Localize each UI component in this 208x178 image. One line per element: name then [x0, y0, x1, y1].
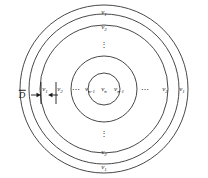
label-right-v2: v2	[162, 86, 168, 93]
ellipsis-right: ⋯	[141, 85, 150, 94]
label-center-vn: vn	[101, 86, 107, 93]
ellipsis-top: ⋮	[100, 40, 108, 49]
label-right-vn1: vn-1	[114, 86, 124, 93]
label-top-v1: v1	[101, 9, 107, 16]
velocity-index: 1	[182, 88, 185, 93]
label-left-v1: v1	[42, 86, 48, 93]
label-top-v2: v2	[101, 24, 107, 31]
velocity-index: 1	[104, 166, 107, 171]
label-bottom-v1: v1	[101, 164, 107, 171]
ellipsis-left: ⋯	[72, 85, 81, 94]
velocity-index: 2	[60, 88, 63, 93]
velocity-index: 2	[104, 151, 107, 156]
label-left-vn1: vn-1	[85, 86, 95, 93]
figure-canvas: v1v2v2v1v1v2vn-1vnvn-1v2v1⋯⋯⋮⋮ D	[0, 0, 208, 178]
ellipsis-bottom: ⋮	[100, 129, 108, 138]
velocity-index: n-1	[117, 88, 124, 93]
label-bottom-v2: v2	[101, 149, 107, 156]
d-bar-symbol: D	[19, 90, 26, 100]
d-bar-label: D	[19, 90, 26, 100]
label-left-v2: v2	[57, 86, 63, 93]
velocity-index: 2	[104, 26, 107, 31]
label-right-v1: v1	[179, 86, 185, 93]
dimension-arrowhead-left	[48, 93, 53, 98]
velocity-index: 2	[165, 88, 168, 93]
velocity-index: n-1	[88, 88, 95, 93]
velocity-index: 1	[45, 88, 48, 93]
velocity-index: 1	[104, 11, 107, 16]
velocity-index: n	[104, 88, 107, 93]
